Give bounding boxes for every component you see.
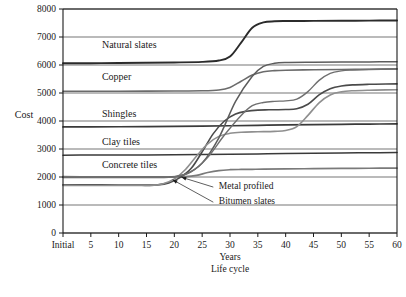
y-tick-label: 7000 (37, 32, 56, 42)
annotation-arrowhead-metal-profiled (182, 177, 187, 181)
x-tick-label: 45 (309, 240, 319, 250)
y-axis-title: Cost (15, 109, 34, 120)
x-tick-label: 50 (337, 240, 347, 250)
series-label-copper: Copper (102, 71, 132, 82)
x-tick-label: 60 (392, 240, 402, 250)
annotation-leader-metal-profiled (182, 177, 214, 187)
x-tick-label: 40 (281, 240, 291, 250)
series-label-concrete-tiles: Concrete tiles (102, 159, 157, 170)
y-tick-label: 0 (51, 228, 56, 238)
x-axis-title: Years (219, 252, 241, 262)
y-tick-label: 8000 (37, 4, 56, 14)
x-tick-label: 25 (197, 240, 207, 250)
y-tick-label: 5000 (37, 88, 56, 98)
x-tick-label: 15 (142, 240, 152, 250)
x-tick-label: 5 (88, 240, 93, 250)
annotation-label-bitumen-slates: Bitumen slates (219, 196, 276, 206)
series-label-shingles: Shingles (102, 108, 137, 119)
x-tick-label: 30 (225, 240, 235, 250)
x-tick-label: 10 (114, 240, 124, 250)
series-curve-shingles (63, 124, 397, 127)
annotation-leader-bitumen-slates (173, 180, 214, 202)
series-label-clay-tiles: Clay tiles (102, 136, 140, 147)
x-tick-label: 35 (253, 240, 263, 250)
series-curve-clay-tiles (63, 153, 397, 156)
chart-root: 010002000300040005000600070008000Initial… (0, 0, 406, 297)
x-tick-label: Initial (52, 240, 75, 250)
y-tick-label: 2000 (37, 172, 56, 182)
y-tick-label: 6000 (37, 60, 56, 70)
y-tick-label: 3000 (37, 144, 56, 154)
y-tick-label: 1000 (37, 200, 56, 210)
annotation-label-metal-profiled: Metal profiled (219, 181, 274, 191)
y-tick-label: 4000 (37, 116, 56, 126)
x-axis-subtitle: Life cycle (211, 264, 249, 274)
life-cycle-cost-chart: 010002000300040005000600070008000Initial… (0, 0, 406, 297)
x-tick-label: 55 (364, 240, 374, 250)
x-tick-label: 20 (170, 240, 180, 250)
series-label-natural-slates: Natural slates (102, 39, 157, 50)
